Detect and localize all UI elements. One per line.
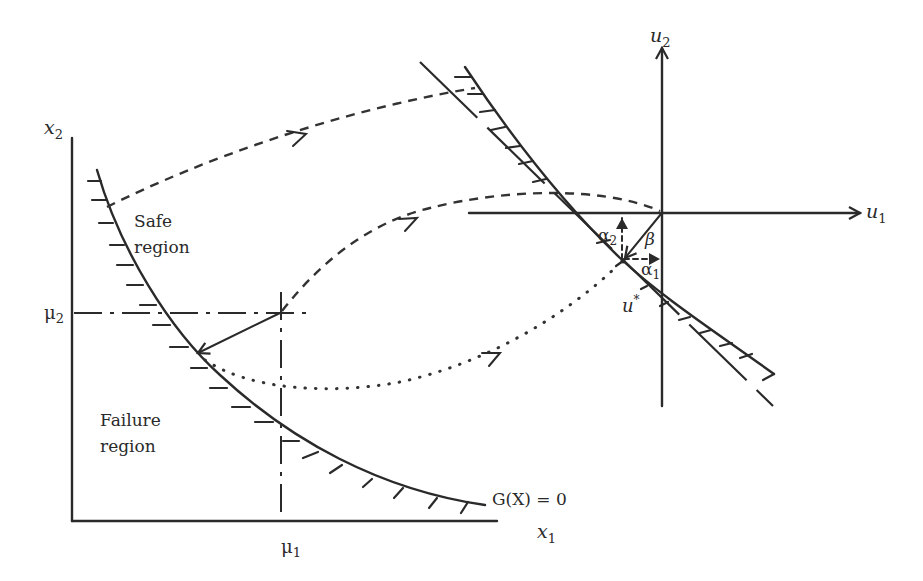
beta-vector bbox=[625, 214, 661, 258]
mu1-label: μ1 bbox=[281, 536, 301, 560]
mu2-label: μ2 bbox=[44, 302, 64, 326]
safe-region-label: Safe region bbox=[134, 211, 190, 257]
mapping-curve-middle bbox=[282, 193, 660, 311]
x2-axis-label: x2 bbox=[44, 116, 63, 142]
mapping-arrowhead-dotted bbox=[482, 353, 500, 366]
x1-axis-label: x1 bbox=[537, 520, 556, 546]
form-diagram: x2 x1 μ2 μ1 Safe region Failure region G… bbox=[0, 0, 923, 581]
beta-label: β bbox=[644, 229, 655, 249]
design-point-u bbox=[621, 259, 626, 264]
mapping-arrowhead-middle bbox=[399, 218, 417, 231]
limit-state-label: G(X) = 0 bbox=[492, 489, 567, 509]
design-point-label: u* bbox=[622, 293, 640, 316]
alpha2-label: α2 bbox=[598, 225, 617, 248]
mean-to-design-point-arrow-x bbox=[198, 313, 280, 353]
mapping-curve-dotted bbox=[205, 268, 615, 389]
alpha1-label: α1 bbox=[641, 259, 660, 282]
failure-region-label: Failure region bbox=[100, 410, 166, 456]
x-space-panel: x2 x1 μ2 μ1 Safe region Failure region G… bbox=[44, 116, 567, 560]
u2-axis-label: u2 bbox=[650, 24, 671, 50]
limit-state-curve-u bbox=[465, 67, 774, 374]
u1-axis-label: u1 bbox=[866, 200, 887, 226]
mapping-curve-upper bbox=[107, 88, 475, 207]
u-space-panel: u2 u1 α2 β α1 u* bbox=[420, 24, 887, 406]
